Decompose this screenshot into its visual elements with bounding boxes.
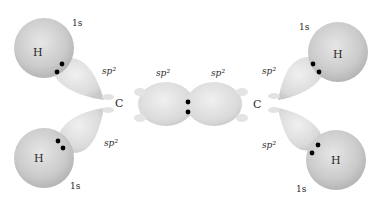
orbital-drawing [0,0,383,206]
orbital-label-sp2-center-left: sp² [156,68,170,78]
hydrogen-1s-top-left [14,18,74,78]
orbital-label-sp2-bottom-right: sp² [262,140,276,150]
orbital-label-1s-top-right: 1s [299,22,309,32]
orbital-label-sp2-top-right: sp² [262,66,276,76]
ethylene-orbital-diagram: H H H H 1s 1s 1s 1s sp² sp² sp² sp² sp² … [0,0,383,206]
hydrogen-label-bottom-left: H [34,152,44,165]
hydrogen-1s-bottom-left [14,128,74,188]
orbital-label-1s-top-left: 1s [72,18,82,28]
carbon-label-right: C [253,98,261,111]
orbital-label-sp2-bottom-left: sp² [104,138,118,148]
hydrogen-label-top-left: H [33,46,43,59]
hydrogen-label-top-right: H [333,48,343,61]
orbital-label-sp2-center-right: sp² [211,68,225,78]
cc-sigma-overlap [134,82,248,126]
orbital-label-1s-bottom-left: 1s [70,181,80,191]
carbon-label-left: C [115,97,123,110]
orbital-label-sp2-top-left: sp² [102,66,116,76]
hydrogen-label-bottom-right: H [331,154,341,167]
orbital-label-1s-bottom-right: 1s [296,184,306,194]
